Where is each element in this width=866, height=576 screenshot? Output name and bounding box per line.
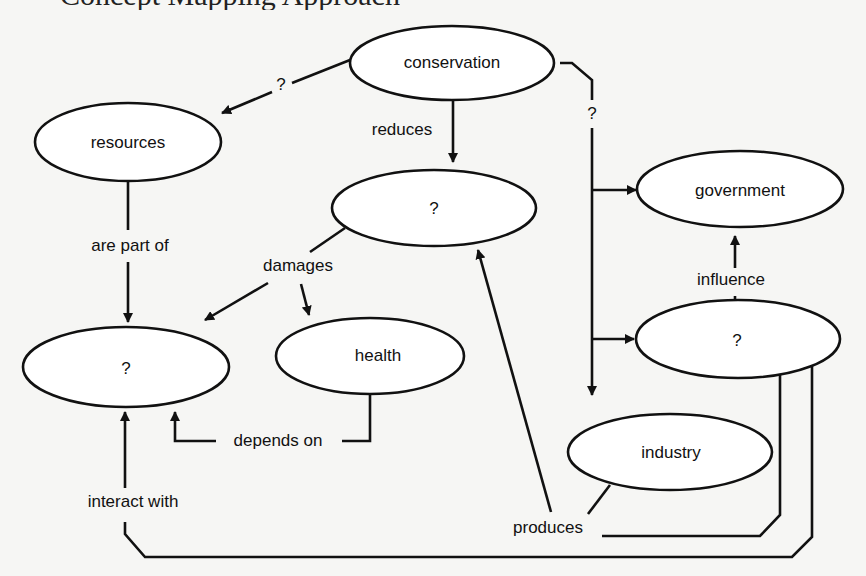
link-label-conservation-resources: ? <box>274 75 287 95</box>
link-label-reduces: reduces <box>370 120 434 140</box>
link-label-interact-with: interact with <box>86 492 181 512</box>
link-label-damages: damages <box>261 256 335 276</box>
edge-depends-on-a <box>342 395 370 441</box>
node-label-unknown-left: ? <box>121 359 130 379</box>
link-label-produces: produces <box>511 518 585 538</box>
node-label-unknown-right: ? <box>732 331 741 351</box>
link-label-influence: influence <box>695 270 767 290</box>
edge-depends-on-b <box>175 412 216 441</box>
edge-conservation-resources-b <box>222 92 272 113</box>
node-label-health: health <box>355 346 401 366</box>
node-label-industry: industry <box>641 443 701 463</box>
node-label-government: government <box>695 181 785 201</box>
edge-damages-a <box>310 228 345 252</box>
edge-conservation-right-a <box>560 63 592 100</box>
node-label-unknown-top: ? <box>429 199 438 219</box>
edge-industry-produces <box>588 485 610 514</box>
node-label-resources: resources <box>91 133 166 153</box>
link-label-are-part-of: are part of <box>89 236 171 256</box>
link-label-depends-on: depends on <box>232 431 325 451</box>
edge-damages-left <box>205 283 268 320</box>
link-label-conservation-right: ? <box>585 104 598 124</box>
edge-produces-up <box>478 250 551 512</box>
edge-conservation-resources-a <box>292 60 350 83</box>
node-label-conservation: conservation <box>404 53 500 73</box>
edge-damages-health <box>301 284 309 315</box>
